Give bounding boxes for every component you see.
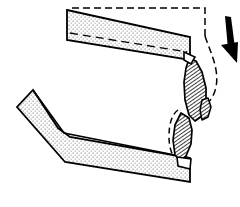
upper-stippled-band-group <box>67 10 190 60</box>
fracture-sliver <box>200 98 211 120</box>
arrow-head <box>221 42 238 63</box>
figure-canvas <box>0 0 240 207</box>
lower-bent-stippled-band-group <box>17 90 190 182</box>
technical-figure: Structural band fracture diagram Technic… <box>0 0 240 207</box>
fracture-fragments <box>173 59 211 161</box>
downward-load-arrow <box>221 16 238 63</box>
lower-hatched-fracture-fragment <box>173 113 192 161</box>
